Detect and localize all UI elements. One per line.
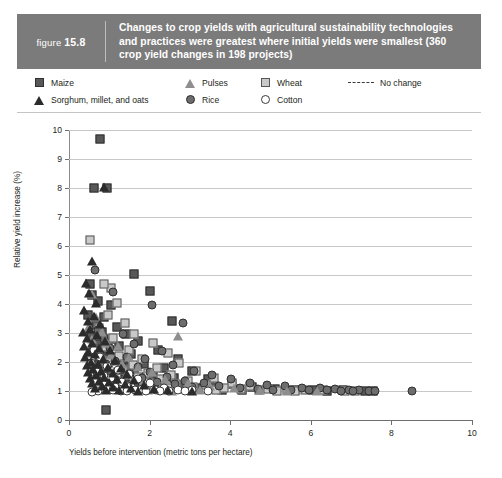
data-point: [102, 405, 111, 414]
marker-triangle-dark: [99, 182, 109, 191]
figure-number-prefix: figure: [36, 37, 61, 48]
data-point: [105, 345, 115, 354]
marker-square-dark: [130, 269, 139, 278]
marker-triangle-dark: [81, 279, 91, 288]
legend-label: Wheat: [277, 78, 302, 88]
figure-header-banner: figure 15.8 Changes to crop yields with …: [17, 14, 481, 69]
legend-label: Cotton: [277, 95, 302, 105]
marker-circle-dark: [322, 386, 331, 395]
gridline-y-10: [69, 130, 472, 131]
data-point: [214, 381, 223, 390]
marker-circle-dark: [371, 387, 380, 396]
legend-swatch: [185, 94, 196, 105]
data-point: [178, 318, 187, 327]
gridline-y-8: [69, 188, 472, 189]
data-point: [101, 385, 111, 394]
legend-entry-pulses[interactable]: Pulses: [185, 77, 228, 88]
marker-square-dark: [146, 286, 155, 295]
legend-swatch: [34, 94, 45, 105]
legend-entry-rice[interactable]: Rice: [185, 94, 219, 105]
marker-square-light: [148, 338, 157, 347]
marker-triangle-dark: [79, 306, 89, 315]
data-point: [148, 338, 157, 347]
x-axis-line: [69, 420, 472, 421]
legend-entry-no[interactable]: No change: [348, 77, 422, 88]
y-tick-label-0: 0: [57, 415, 62, 425]
marker-triangle-dark: [95, 320, 105, 329]
x-tick-label-6: 6: [308, 428, 313, 438]
data-point: [349, 387, 358, 396]
marker-square-light: [261, 78, 270, 87]
marker-circle-dark: [168, 361, 177, 370]
legend-entry-maize[interactable]: Maize: [34, 77, 74, 88]
marker-square-light: [85, 236, 94, 245]
y-tick-label-4: 4: [57, 299, 62, 309]
data-point: [282, 386, 292, 395]
legend-entry-sorghum[interactable]: Sorghum, millet, and oats: [34, 94, 148, 105]
marker-triangle-dark: [114, 386, 124, 395]
y-tick-label-6: 6: [57, 241, 62, 251]
legend-swatch: [34, 77, 45, 88]
data-point: [84, 288, 94, 297]
data-point: [108, 287, 117, 296]
chart-legend: MaizeSorghum, millet, and oatsPulsesRice…: [17, 76, 481, 110]
marker-triangle-light: [185, 79, 195, 88]
data-point: [147, 367, 157, 376]
legend-label: Maize: [51, 78, 74, 88]
marker-dashed-line: [348, 82, 374, 83]
data-point: [121, 318, 130, 327]
data-point: [99, 280, 108, 289]
y-tick-mark-10: [65, 130, 69, 131]
y-tick-mark-1: [65, 391, 69, 392]
figure-container: figure 15.8 Changes to crop yields with …: [0, 0, 502, 478]
marker-triangle-dark: [187, 387, 197, 396]
x-tick-mark-2: [150, 420, 151, 425]
data-point: [89, 184, 98, 193]
marker-square-light: [121, 318, 130, 327]
y-tick-label-7: 7: [57, 212, 62, 222]
figure-number-value: 15.8: [64, 36, 85, 48]
marker-circle-dark: [337, 386, 346, 395]
marker-triangle-dark: [84, 288, 94, 297]
data-point: [133, 363, 143, 372]
x-tick-label-10: 10: [467, 428, 477, 438]
data-point: [114, 386, 124, 395]
marker-triangle-light: [147, 367, 157, 376]
marker-triangle-dark: [90, 383, 100, 392]
y-tick-mark-8: [65, 188, 69, 189]
data-point: [130, 329, 139, 338]
marker-square-dark: [167, 316, 176, 325]
y-axis-title: Relative yield increase (%): [13, 171, 22, 268]
y-tick-label-3: 3: [57, 328, 62, 338]
data-point: [255, 385, 265, 394]
marker-square-dark: [35, 78, 44, 87]
x-tick-mark-4: [230, 420, 231, 425]
plot-frame: 0123456789100246810: [69, 130, 472, 420]
legend-entry-cotton[interactable]: Cotton: [260, 94, 302, 105]
y-tick-label-9: 9: [57, 154, 62, 164]
data-point: [268, 385, 277, 394]
marker-circle-dark: [268, 385, 277, 394]
marker-triangle-light: [282, 386, 292, 395]
x-tick-mark-6: [311, 420, 312, 425]
data-point: [160, 374, 170, 383]
data-point: [407, 387, 416, 396]
marker-circle-dark: [147, 301, 156, 310]
data-point: [96, 134, 105, 143]
marker-triangle-light: [173, 332, 183, 341]
y-tick-mark-4: [65, 304, 69, 305]
data-point: [312, 387, 322, 396]
data-point: [99, 182, 109, 191]
data-point: [146, 286, 155, 295]
data-point: [337, 386, 346, 395]
marker-triangle-dark: [149, 384, 159, 393]
legend-label: No change: [380, 78, 422, 88]
marker-circle-dark: [130, 340, 139, 349]
data-point: [81, 279, 91, 288]
marker-triangle-dark: [133, 386, 143, 395]
marker-triangle-light: [255, 385, 265, 394]
marker-triangle-light: [160, 374, 170, 383]
marker-circle-dark: [214, 381, 223, 390]
legend-entry-wheat[interactable]: Wheat: [260, 77, 302, 88]
y-tick-mark-2: [65, 362, 69, 363]
